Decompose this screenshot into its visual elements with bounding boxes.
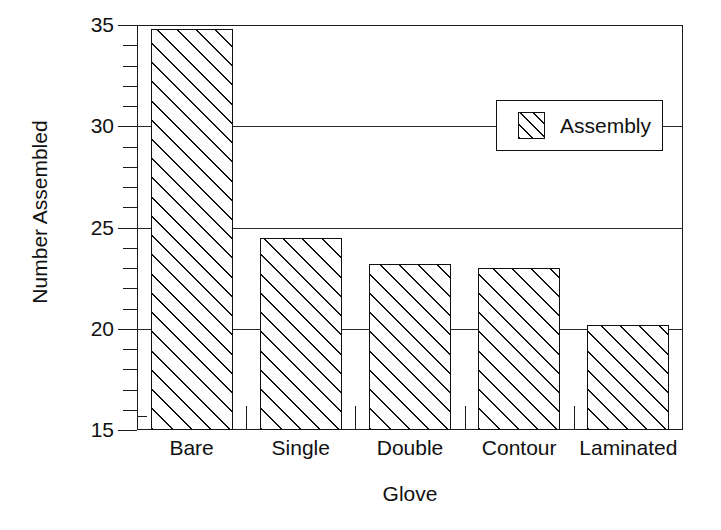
- y-tick-minor-18: [123, 369, 137, 370]
- x-axis-title: Glove: [137, 482, 683, 506]
- y-tick-minor-29: [123, 147, 137, 148]
- y-tick-major-30: [118, 126, 137, 127]
- bar-single: [260, 238, 342, 430]
- y-axis-tick-labels-group: 1520253035: [58, 0, 114, 530]
- y-axis-title: Number Assembled: [28, 92, 52, 332]
- y-tick-minor-31: [123, 106, 137, 107]
- y-tick-minor-21: [123, 309, 137, 310]
- y-tick-minor-26: [123, 207, 137, 208]
- y-tick-label-35: 35: [64, 14, 114, 35]
- y-tick-minor-23: [123, 268, 137, 269]
- bar-double: [369, 264, 451, 430]
- y-tick-minor-33: [123, 66, 137, 67]
- y-tick-minor-22: [123, 288, 137, 289]
- y-tick-minor-34: [123, 45, 137, 46]
- x-tick-label-laminated: Laminated: [548, 437, 708, 458]
- chart-figure: 1520253035 BareSingleDoubleContourLamina…: [0, 0, 721, 530]
- bar-laminated: [587, 325, 669, 430]
- y-tick-label-20: 20: [64, 318, 114, 339]
- y-tick-label-30: 30: [64, 115, 114, 136]
- x-tick-2: [465, 406, 466, 430]
- legend-label-assembly: Assembly: [560, 115, 651, 136]
- x-tick-1: [355, 406, 356, 430]
- y-tick-major-35: [118, 25, 137, 26]
- y-tick-minor-27: [123, 187, 137, 188]
- y-tick-minor-32: [123, 86, 137, 87]
- legend: Assembly: [496, 100, 663, 151]
- y-tick-major-15: [118, 430, 137, 431]
- bar-bare: [151, 29, 233, 430]
- x-tick-3: [574, 406, 575, 430]
- x-tick-0: [246, 406, 247, 430]
- y-tick-major-25: [118, 228, 137, 229]
- y-tick-label-25: 25: [64, 217, 114, 238]
- y-tick-minor-28: [123, 167, 137, 168]
- y-tick-minor-24: [123, 248, 137, 249]
- y-tick-minor-19: [123, 349, 137, 350]
- y-tick-minor-17: [123, 390, 137, 391]
- y-tick-major-20: [118, 329, 137, 330]
- bar-contour: [478, 268, 560, 430]
- legend-swatch-assembly: [518, 112, 545, 139]
- x-axis-origin-tick: [137, 416, 147, 417]
- y-tick-minor-16: [123, 410, 137, 411]
- y-tick-label-15: 15: [64, 419, 114, 440]
